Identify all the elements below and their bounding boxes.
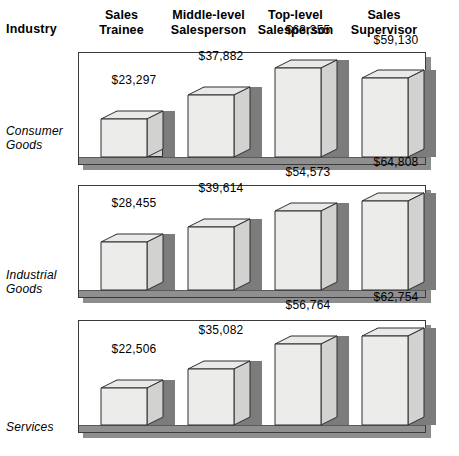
value-label-consumer-goods-sales-supervisor: $59,130: [351, 33, 441, 47]
value-label-consumer-goods-sales-trainee: $23,297: [89, 73, 179, 87]
bar-3d-outline: [275, 336, 337, 425]
value-label-industrial-goods-sales-trainee: $28,455: [89, 196, 179, 210]
bar-3d-outline: [362, 70, 424, 157]
value-label-services-top-level: $56,764: [263, 298, 353, 312]
value-label-industrial-goods-sales-supervisor: $64,808: [351, 155, 441, 169]
value-label-services-sales-trainee: $22,506: [89, 342, 179, 356]
bar-consumer-goods-sales-supervisor: [362, 70, 424, 157]
value-label-industrial-goods-top-level: $54,573: [263, 165, 353, 179]
bar-3d-outline: [275, 60, 337, 157]
bar-services-sales-trainee: [101, 380, 163, 425]
column-header-line1: Sales: [339, 8, 429, 23]
column-header-line2: Trainee: [78, 23, 165, 38]
bar-services-top-level: [275, 336, 337, 425]
sales-compensation-chart: Industry Sales Trainee Middle-level Sale…: [0, 0, 459, 456]
column-header-sales-trainee: Sales Trainee: [78, 8, 165, 38]
row-label-line1: Industrial: [6, 268, 76, 282]
row-label-services: Services: [6, 420, 76, 434]
bar-3d-outline: [188, 361, 250, 425]
panel-base-strip: [79, 426, 425, 432]
column-header-line1: Middle-level: [165, 8, 252, 23]
column-header-middle-level-salesperson: Middle-level Salesperson: [165, 8, 252, 38]
bar-consumer-goods-middle-level: [188, 87, 250, 157]
column-header-line1: Sales: [78, 8, 165, 23]
value-label-services-middle-level: $35,082: [176, 323, 266, 337]
bar-3d-outline: [275, 203, 337, 290]
bar-consumer-goods-sales-trainee: [101, 111, 163, 157]
bar-industrial-goods-sales-supervisor: [362, 193, 424, 290]
value-label-consumer-goods-middle-level: $37,882: [176, 49, 266, 63]
bar-industrial-goods-top-level: [275, 203, 337, 290]
bar-3d-outline: [362, 328, 424, 425]
industry-axis-label: Industry: [6, 22, 78, 36]
panel-shadow-bottom: [83, 433, 431, 438]
bar-3d-outline: [188, 87, 250, 157]
value-label-consumer-goods-top-level: $63,355: [263, 23, 353, 37]
row-label-line1: Consumer: [6, 124, 76, 138]
bar-3d-outline: [101, 234, 163, 290]
bar-3d-outline: [101, 380, 163, 425]
value-label-industrial-goods-middle-level: $39,614: [176, 181, 266, 195]
row-label-consumer-goods: Consumer Goods: [6, 124, 76, 152]
bar-services-sales-supervisor: [362, 328, 424, 425]
panel-services: $22,506 $35,082 $56,764: [78, 320, 426, 433]
bar-industrial-goods-middle-level: [188, 219, 250, 290]
panel-consumer-goods: $23,297 $37,882 $63,355: [78, 52, 426, 165]
bar-services-middle-level: [188, 361, 250, 425]
bar-3d-outline: [101, 111, 163, 157]
row-label-line2: Goods: [6, 138, 76, 152]
row-label-line1: Services: [6, 420, 76, 434]
row-label-line2: Goods: [6, 282, 76, 296]
row-label-industrial-goods: Industrial Goods: [6, 268, 76, 296]
bar-3d-outline: [362, 193, 424, 290]
panel-industrial-goods: $28,455 $39,614 $54,573: [78, 185, 426, 298]
bar-consumer-goods-top-level: [275, 60, 337, 157]
value-label-services-sales-supervisor: $62,754: [351, 290, 441, 304]
bar-3d-outline: [188, 219, 250, 290]
column-header-line1: Top-level: [252, 8, 339, 23]
bar-industrial-goods-sales-trainee: [101, 234, 163, 290]
column-header-line2: Salesperson: [165, 23, 252, 38]
